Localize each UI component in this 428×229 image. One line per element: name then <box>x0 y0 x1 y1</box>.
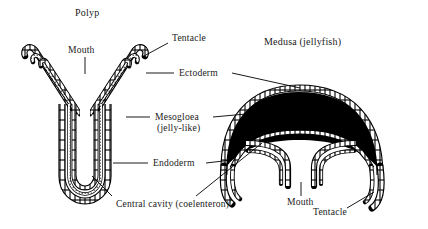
label-mouth-medusa: Mouth <box>287 196 314 207</box>
medusa-manubrium-left <box>246 143 288 186</box>
medusa-manubrium-right <box>314 143 356 186</box>
polyp-body-column <box>62 104 108 201</box>
label-ectoderm: Ectoderm <box>179 67 218 78</box>
label-endoderm: Endoderm <box>153 157 195 168</box>
label-mesogloea-note: (jelly-like) <box>157 122 200 133</box>
label-tentacle-medusa: Tentacle <box>313 206 347 217</box>
label-mesogloea: Mesogloea <box>155 111 199 122</box>
polyp-right-tentacle <box>90 47 146 114</box>
polyp-title: Polyp <box>75 7 99 18</box>
medusa-title: Medusa (jellyfish) <box>264 36 341 47</box>
label-central-cavity: Central cavity (coelenteron) <box>116 198 229 209</box>
label-tentacle-polyp: Tentacle <box>172 32 206 43</box>
medusa-structure <box>223 88 381 208</box>
medusa-right-tentacle <box>365 166 381 208</box>
polyp-left-tentacle <box>24 47 80 114</box>
label-mouth-polyp: Mouth <box>68 44 95 55</box>
leader-ectoderm-right <box>232 73 300 88</box>
cnidarian-anatomy-figure: Polyp Medusa (jellyfish) Mouth Tentacle … <box>0 0 428 229</box>
diagram-canvas <box>0 0 428 229</box>
